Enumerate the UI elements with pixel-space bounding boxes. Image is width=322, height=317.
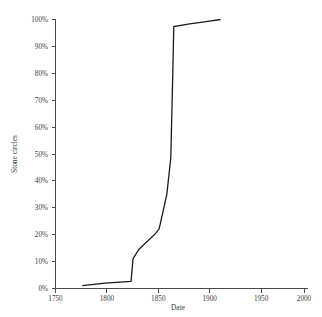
y-axis-ticks <box>52 20 56 289</box>
y-tick-label: 40% <box>35 177 48 185</box>
y-axis-title: Stone circles <box>10 135 19 173</box>
y-tick-label: 50% <box>35 151 48 159</box>
x-tick-label: 1800 <box>100 295 115 303</box>
y-tick-label: 100% <box>31 16 48 24</box>
y-tick-label: 90% <box>35 43 48 51</box>
x-tick-label: 1850 <box>151 295 166 303</box>
x-tick-label: 1950 <box>254 295 269 303</box>
y-tick-label: 80% <box>35 70 48 78</box>
y-tick-label: 10% <box>35 258 48 266</box>
y-tick-label: 20% <box>35 231 48 239</box>
x-tick-label: 1750 <box>48 295 63 303</box>
data-series-line <box>82 20 220 286</box>
y-tick-label: 70% <box>35 97 48 105</box>
stone-circles-line-chart: 0% 10% 20% 30% 40% 50% 60% 70% 80% 90% 1… <box>0 0 322 317</box>
x-axis-tick-labels: 1750 1800 1850 1900 1950 2000 <box>48 295 311 303</box>
x-axis-title: Date <box>171 303 186 312</box>
x-tick-label: 1900 <box>203 295 218 303</box>
y-tick-label: 30% <box>35 204 48 212</box>
y-axis-tick-labels: 0% 10% 20% 30% 40% 50% 60% 70% 80% 90% 1… <box>31 16 48 293</box>
x-axis-ticks <box>56 289 305 293</box>
y-tick-label: 0% <box>38 285 48 293</box>
x-tick-label: 2000 <box>297 295 312 303</box>
chart-figure: 0% 10% 20% 30% 40% 50% 60% 70% 80% 90% 1… <box>0 0 322 317</box>
y-tick-label: 60% <box>35 124 48 132</box>
